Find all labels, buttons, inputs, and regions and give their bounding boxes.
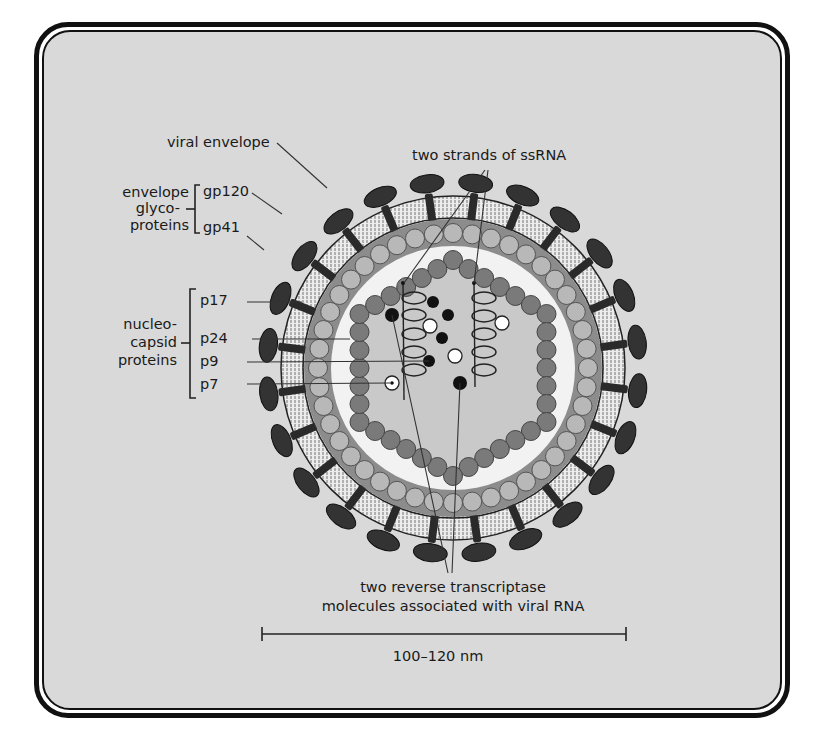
label-p9: p9 bbox=[200, 353, 218, 369]
label-p17: p17 bbox=[200, 292, 228, 308]
label-capsid-proteins: proteins bbox=[118, 352, 177, 368]
protein-dot-white bbox=[423, 319, 437, 333]
scale-bar bbox=[262, 627, 626, 641]
label-ssrna: two strands of ssRNA bbox=[412, 147, 566, 163]
protein-dot-white bbox=[495, 316, 509, 330]
label-gp41: gp41 bbox=[203, 219, 240, 235]
label-envelope: envelope bbox=[122, 184, 189, 200]
label-viral-envelope: viral envelope bbox=[167, 134, 270, 150]
label-reverse-transcriptase-1: two reverse transcriptase bbox=[360, 579, 546, 595]
virion bbox=[257, 172, 648, 563]
label-glyco: glyco- bbox=[136, 200, 180, 216]
protein-dot bbox=[427, 296, 439, 308]
protein-dot bbox=[436, 332, 448, 344]
scale-bar-label: 100–120 nm bbox=[393, 648, 484, 664]
label-gp120: gp120 bbox=[203, 183, 249, 199]
protein-dot-white bbox=[448, 349, 462, 363]
protein-dot bbox=[442, 309, 454, 321]
label-capsid: capsid bbox=[130, 334, 177, 350]
hiv-virion-diagram: two strands of ssRNA viral envelope enve… bbox=[0, 0, 826, 743]
label-proteins: proteins bbox=[130, 217, 189, 233]
label-reverse-transcriptase-2: molecules associated with viral RNA bbox=[322, 598, 585, 614]
label-nucleo: nucleo- bbox=[123, 316, 177, 332]
label-p24: p24 bbox=[200, 330, 228, 346]
label-p7: p7 bbox=[200, 376, 218, 392]
